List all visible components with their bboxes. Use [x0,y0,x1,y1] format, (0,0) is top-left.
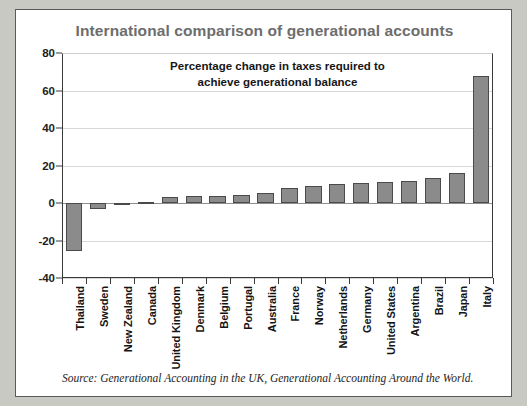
bar-series [62,53,493,278]
x-axis-label-united-states: United States [385,286,397,355]
bar-slot [230,53,254,278]
x-axis-label-japan: Japan [457,286,469,317]
bar[interactable] [449,173,465,203]
bar[interactable] [90,203,106,209]
x-label-slot: United States [373,284,397,362]
bar-slot [278,53,302,278]
x-axis-label-brazil: Brazil [433,286,445,315]
y-tick-mark-20 [56,165,62,166]
bar[interactable] [329,184,345,203]
y-tick-label: 60 [42,85,55,97]
x-axis-label-belgium: Belgium [218,286,230,329]
bar-slot [182,53,206,278]
x-axis-label-argentina: Argentina [409,286,421,336]
y-tick-mark-40 [56,128,62,129]
y-tick-label: 20 [42,160,55,172]
bar[interactable] [66,203,82,251]
bar-slot [469,53,493,278]
x-axis-label-denmark: Denmark [194,286,206,332]
x-axis-label-united-kingdom: United Kingdom [170,286,182,370]
bar[interactable] [281,188,297,203]
bar[interactable] [257,193,273,203]
bar-slot [373,53,397,278]
bar-slot [86,53,110,278]
bar[interactable] [209,196,225,204]
bar[interactable] [138,202,154,204]
x-axis-label-sweden: Sweden [98,286,110,327]
x-tick-mark [493,278,494,284]
x-axis-label-germany: Germany [361,286,373,333]
y-tick-label: -40 [38,272,55,284]
x-label-slot: Australia [254,284,278,362]
x-axis-label-australia: Australia [266,286,278,332]
x-label-slot: Argentina [397,284,421,362]
bar-slot [445,53,469,278]
bar-slot [349,53,373,278]
bar-slot [206,53,230,278]
bar[interactable] [425,178,441,203]
bar[interactable] [353,183,369,203]
bar[interactable] [473,76,489,204]
bar-slot [254,53,278,278]
bar-slot [421,53,445,278]
x-axis-label-france: France [289,286,301,321]
x-axis-label-canada: Canada [146,286,158,325]
page-title: International comparison of generational… [16,22,513,40]
y-tick-mark--20 [56,240,62,241]
x-label-slot: Thailand [62,284,86,362]
bar[interactable] [401,181,417,203]
bar[interactable] [114,203,130,205]
x-label-slot: Belgium [206,284,230,362]
x-label-slot: Denmark [182,284,206,362]
bar[interactable] [162,197,178,203]
x-label-slot: Japan [445,284,469,362]
x-label-slot: Canada [134,284,158,362]
x-label-slot: Brazil [421,284,445,362]
chart-panel: International comparison of generational… [15,9,512,397]
y-tick-mark-60 [56,90,62,91]
x-label-slot: United Kingdom [158,284,182,362]
figure-container: International comparison of generational… [0,0,527,406]
bar-slot [397,53,421,278]
bar-slot [325,53,349,278]
x-label-slot: Netherlands [325,284,349,362]
bar[interactable] [377,182,393,203]
x-label-slot: Norway [301,284,325,362]
x-axis-label-norway: Norway [313,286,325,325]
bar[interactable] [186,196,202,203]
x-axis-label-netherlands: Netherlands [337,286,349,348]
y-tick-mark-0 [56,203,62,204]
x-axis-label-thailand: Thailand [74,286,86,330]
y-tick-label: 80 [42,47,55,59]
x-label-slot: Sweden [86,284,110,362]
bar-slot [110,53,134,278]
y-tick-label: -20 [38,235,55,247]
x-label-slot: New Zealand [110,284,134,362]
x-label-slot: Portugal [230,284,254,362]
bar-slot [301,53,325,278]
x-axis-label-italy: Italy [481,286,493,308]
bar[interactable] [233,195,249,203]
x-label-slot: Italy [469,284,493,362]
x-label-slot: France [278,284,302,362]
bar[interactable] [305,186,321,203]
y-tick-label: 0 [49,197,55,209]
bar-slot [62,53,86,278]
source-note: Source: Generational Accounting in the U… [62,372,492,384]
x-label-slot: Germany [349,284,373,362]
bar-slot [134,53,158,278]
plot-area: Percentage change in taxes required to a… [62,53,493,278]
bar-slot [158,53,182,278]
x-axis-label-portugal: Portugal [242,286,254,330]
y-tick-label: 40 [42,122,55,134]
y-tick-mark-80 [56,53,62,54]
x-axis-label-new-zealand: New Zealand [122,286,134,352]
x-axis-labels: ThailandSwedenNew ZealandCanadaUnited Ki… [62,284,493,362]
